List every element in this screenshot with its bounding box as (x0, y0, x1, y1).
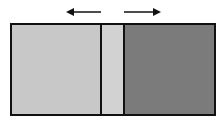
right-region (124, 24, 215, 115)
diagram-canvas (0, 0, 221, 127)
diagram-svg (0, 0, 221, 127)
middle-strip (101, 24, 124, 115)
left-region (11, 24, 101, 115)
